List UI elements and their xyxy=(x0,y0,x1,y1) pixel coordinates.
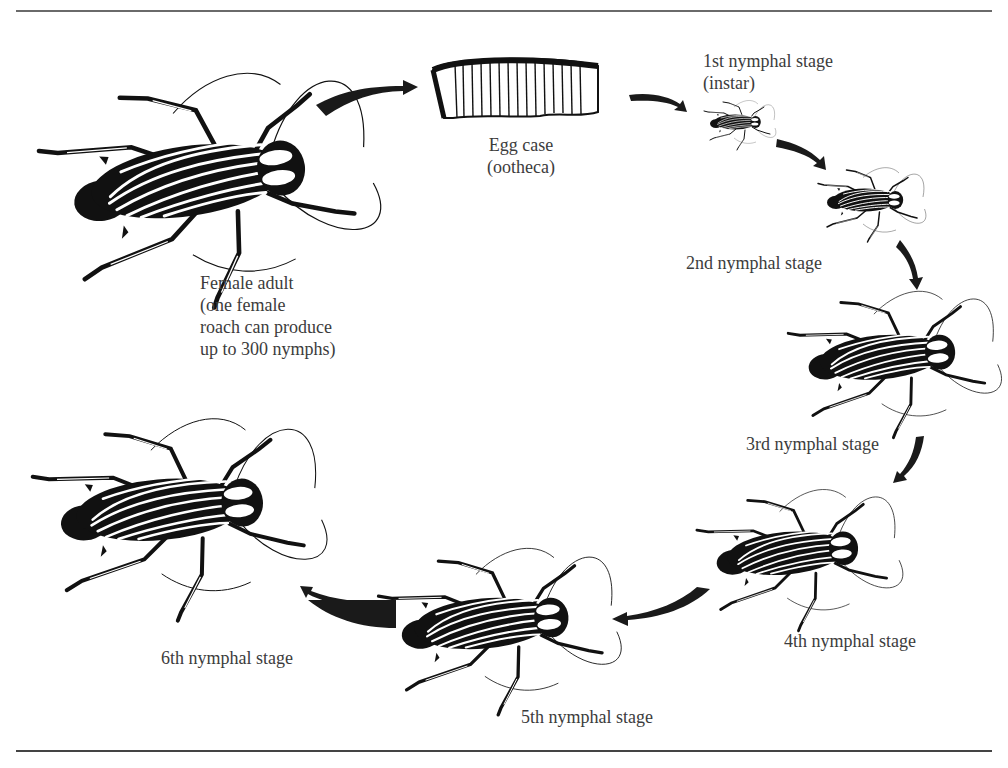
arrow-nymph3-to-nymph4-icon xyxy=(893,436,924,483)
label-egg-case: Egg case (ootheca) xyxy=(466,134,576,178)
arrow-nymph5-to-nymph6-icon xyxy=(300,586,396,628)
label-nymph-2: 2nd nymphal stage xyxy=(686,252,822,274)
arrow-egg-to-nymph1-icon xyxy=(629,94,687,112)
label-line: 4th nymphal stage xyxy=(784,630,916,652)
nymph-5-roach-icon xyxy=(375,541,626,725)
label-female-adult: Female adult (one female roach can produ… xyxy=(200,272,336,360)
nymph-3-roach-icon xyxy=(786,285,1006,446)
arrow-adult-to-egg-icon xyxy=(316,80,418,116)
egg-case-icon xyxy=(433,59,598,118)
label-nymph-6: 6th nymphal stage xyxy=(161,647,293,669)
label-nymph-3: 3rd nymphal stage xyxy=(746,433,879,455)
nymph-1-roach-icon xyxy=(704,100,776,150)
label-line: roach can produce xyxy=(200,316,336,338)
label-nymph-1: 1st nymphal stage (instar) xyxy=(703,50,833,94)
label-line: up to 300 nymphs) xyxy=(200,338,336,360)
arrow-nymph1-to-nymph2-icon xyxy=(776,139,826,170)
label-line: Female adult xyxy=(200,272,336,294)
label-line: 5th nymphal stage xyxy=(521,706,653,728)
label-line: (instar) xyxy=(703,72,833,94)
nymph-2-roach-icon xyxy=(818,168,926,242)
label-line: 6th nymphal stage xyxy=(161,647,293,669)
label-line: 2nd nymphal stage xyxy=(686,252,822,274)
label-nymph-4: 4th nymphal stage xyxy=(784,630,916,652)
label-line: (ootheca) xyxy=(466,156,576,178)
nymph-4-roach-icon xyxy=(694,483,907,639)
arrow-nymph4-to-nymph5-icon xyxy=(612,587,710,626)
label-nymph-5: 5th nymphal stage xyxy=(521,706,653,728)
label-line: Egg case xyxy=(466,134,576,156)
nymph-6-roach-icon xyxy=(29,410,333,633)
label-line: 3rd nymphal stage xyxy=(746,433,879,455)
label-line: 1st nymphal stage xyxy=(703,50,833,72)
life-cycle-diagram xyxy=(0,0,1008,768)
arrow-nymph2-to-nymph3-icon xyxy=(896,240,923,290)
label-line: (one female xyxy=(200,294,336,316)
